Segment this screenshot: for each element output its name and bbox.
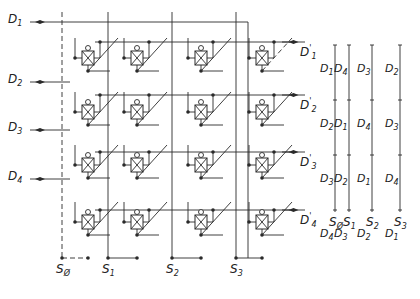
switch-matrix-drawing [0, 0, 420, 299]
junction-dot [73, 110, 77, 114]
table-cell-3-1: D3 [385, 118, 399, 132]
select-label-1: S1 [102, 263, 115, 278]
junction-dot [147, 150, 151, 154]
table-cell-1-1: D1 [334, 118, 348, 132]
junction-dot [247, 163, 251, 167]
input-label-1: D1 [8, 13, 22, 28]
table-cell-0-2: D3 [320, 173, 334, 187]
junction-dot [272, 150, 276, 154]
gate-circle-icon [199, 153, 204, 158]
gate-circle-icon [260, 100, 265, 105]
junction-dot [186, 220, 190, 224]
junction-dot [122, 163, 126, 167]
junction-dot [147, 208, 151, 212]
junction-dot [135, 256, 139, 260]
junction-dot [186, 56, 190, 60]
select-label-3: S3 [230, 263, 243, 278]
input-label-3: D3 [8, 121, 22, 136]
junction-dot [147, 40, 151, 44]
table-cell-0-1: D2 [320, 118, 334, 132]
bidirectional-arrow-icon [35, 177, 45, 181]
gate-circle-icon [86, 46, 91, 51]
gate-circle-icon [260, 46, 265, 51]
junction-dot [122, 110, 126, 114]
gate-circle-icon [199, 210, 204, 215]
junction-dot [272, 93, 276, 97]
gate-circle-icon [260, 210, 265, 215]
table-cell-2-2: D1 [357, 173, 371, 187]
output-label-4: D'4 [300, 213, 317, 229]
junction-dot [98, 150, 102, 154]
junction-dot [98, 208, 102, 212]
junction-dot [247, 56, 251, 60]
bidirectional-arrow-icon [35, 128, 45, 132]
table-cell-2-0: D3 [357, 63, 371, 77]
junction-dot [211, 208, 215, 212]
junction-dot [260, 256, 264, 260]
junction-dot [147, 93, 151, 97]
table-cell-1-2: D2 [334, 173, 348, 187]
junction-dot [272, 40, 276, 44]
gate-circle-icon [86, 100, 91, 105]
junction-dot [186, 163, 190, 167]
junction-dot [73, 220, 77, 224]
table-select-label-2: S2 [366, 216, 379, 231]
bidirectional-arrow-icon [289, 150, 299, 154]
junction-dot [247, 110, 251, 114]
bidirectional-arrow-icon [289, 208, 299, 212]
gate-circle-icon [86, 153, 91, 158]
gate-circle-icon [199, 46, 204, 51]
output-label-3: D'3 [300, 155, 317, 171]
gate-circle-icon [199, 100, 204, 105]
input-label-4: D4 [8, 170, 22, 185]
table-cell-0-0: D1 [320, 63, 334, 77]
junction-dot [73, 56, 77, 60]
table-cell-1-0: D4 [334, 63, 348, 77]
junction-dot [122, 220, 126, 224]
table-cell-3-0: D2 [385, 63, 399, 77]
gate-circle-icon [135, 46, 140, 51]
table-cell-3-2: D4 [385, 173, 399, 187]
diagram-canvas: SØS1S2S3D1D2D3D4D'1D'2D'3D'4D1D2D3D4SØD4… [0, 0, 420, 299]
junction-dot [211, 150, 215, 154]
table-cell-2-1: D4 [357, 118, 371, 132]
junction-dot [98, 93, 102, 97]
gate-circle-icon [135, 210, 140, 215]
junction-dot [247, 220, 251, 224]
gate-circle-icon [260, 153, 265, 158]
table-select-label-3: S3 [394, 216, 407, 231]
junction-dot [211, 93, 215, 97]
table-select-label-1: S1 [343, 216, 356, 231]
gate-circle-icon [86, 210, 91, 215]
gate-circle-icon [135, 100, 140, 105]
bidirectional-arrow-icon [35, 80, 45, 84]
input-label-2: D2 [8, 73, 22, 88]
junction-dot [73, 163, 77, 167]
junction-dot [170, 256, 174, 260]
junction-dot [106, 256, 110, 260]
gate-circle-icon [135, 153, 140, 158]
junction-dot [211, 40, 215, 44]
select-label-2: S2 [166, 263, 179, 278]
junction-dot [186, 110, 190, 114]
junction-dot [86, 256, 90, 260]
select-label-0: SØ [56, 263, 70, 278]
junction-dot [98, 40, 102, 44]
output-label-2: D'2 [300, 98, 317, 114]
junction-dot [272, 208, 276, 212]
output-label-1: D'1 [300, 45, 317, 61]
junction-dot [60, 256, 64, 260]
bidirectional-arrow-icon [35, 20, 45, 24]
junction-dot [122, 56, 126, 60]
junction-dot [234, 256, 238, 260]
junction-dot [199, 256, 203, 260]
